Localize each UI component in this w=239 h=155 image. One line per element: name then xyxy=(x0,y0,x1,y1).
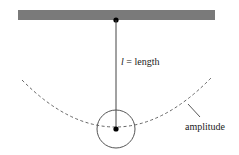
amplitude-label: amplitude xyxy=(185,121,225,132)
bob-center xyxy=(113,126,118,131)
amplitude-leader-line xyxy=(188,104,200,117)
length-text: length xyxy=(134,56,159,67)
length-label: l = length xyxy=(121,56,159,67)
pendulum-diagram: l = length amplitude xyxy=(0,0,239,155)
equals-sign: = xyxy=(124,56,135,67)
